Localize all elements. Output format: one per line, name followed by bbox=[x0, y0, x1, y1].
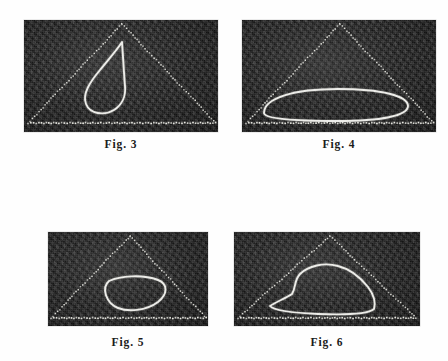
baseline-fig-6 bbox=[237, 317, 416, 320]
guide-triangle-fig-6 bbox=[239, 235, 415, 317]
figure-cell-fig-6: Fig. 6 bbox=[0, 0, 448, 361]
photo-panel-fig-6 bbox=[234, 232, 420, 326]
figure-caption-fig-6: Fig. 6 bbox=[234, 336, 420, 348]
figure-plate: Fig. 3Fig. 4Fig. 5Fig. 6 bbox=[0, 0, 448, 361]
trace-curve-fig-6 bbox=[270, 264, 375, 314]
overlay-fig-6 bbox=[234, 232, 420, 326]
